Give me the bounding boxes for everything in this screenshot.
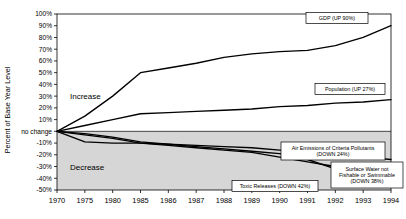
- y-tick-label: 60%: [39, 57, 52, 64]
- callout-line: GDP (UP 90%): [319, 15, 356, 21]
- y-tick-label: 40%: [39, 81, 52, 88]
- x-tick-label: 1991: [299, 196, 315, 205]
- callout-line: Fishable or Swimmable: [339, 172, 395, 178]
- y-tick-label: -20%: [37, 151, 53, 158]
- x-tick-label: 1985: [132, 196, 148, 205]
- y-tick-label: -40%: [37, 175, 53, 182]
- x-tick-label: 1990: [271, 196, 287, 205]
- y-tick-label: 90%: [39, 22, 52, 29]
- y-tick-label: 80%: [39, 34, 52, 41]
- x-tick-label: 1986: [160, 196, 176, 205]
- y-tick-label: 30%: [39, 93, 52, 100]
- chart-container: Percent of Base Year Level 100%90%80%70%…: [0, 0, 406, 219]
- y-tick-label: -10%: [37, 139, 53, 146]
- x-tick-label: 1988: [216, 196, 232, 205]
- x-tick-label: 1992: [327, 196, 343, 205]
- y-tick-label: -30%: [37, 163, 53, 170]
- y-tick-label: -50%: [37, 186, 53, 193]
- x-tick-label: 1993: [355, 196, 371, 205]
- callout-line: Population (UP 27%): [325, 86, 375, 92]
- y-tick-label: 50%: [39, 69, 52, 76]
- callout-line: Air Emissions of Criteria Pollutants: [292, 145, 375, 151]
- x-tick-label: 1970: [49, 196, 65, 205]
- callout-line: Toxic Releases (DOWN 42%): [240, 183, 311, 189]
- callout-line: Surface Water not: [345, 166, 389, 172]
- y-tick-label: no change: [21, 128, 52, 136]
- x-tick-label: 1980: [104, 196, 120, 205]
- y-tick-label: 10%: [39, 116, 52, 123]
- x-tick-label: 1975: [77, 196, 93, 205]
- callout-line: (DOWN 38%): [351, 178, 384, 184]
- y-tick-label: 70%: [39, 46, 52, 53]
- trend-line-chart: Percent of Base Year Level 100%90%80%70%…: [0, 0, 406, 219]
- series-callout: GDP (UP 90%): [306, 13, 368, 24]
- series-callout: Surface Water notFishable or Swimmable(D…: [331, 162, 403, 188]
- callout-line: (DOWN 24%): [317, 151, 350, 157]
- series-callout: Air Emissions of Criteria Pollutants(DOW…: [281, 142, 385, 160]
- series-callout: Population (UP 27%): [315, 84, 385, 95]
- zone-label: Decrease: [70, 163, 105, 172]
- x-tick-label: 1987: [188, 196, 204, 205]
- series-callout: Toxic Releases (DOWN 42%): [232, 181, 318, 192]
- y-tick-label: 100%: [35, 10, 52, 17]
- y-axis-title: Percent of Base Year Level: [3, 66, 12, 153]
- zone-label: Increase: [70, 92, 101, 101]
- y-tick-label: 20%: [39, 104, 52, 111]
- x-tick-label: 1989: [244, 196, 260, 205]
- x-tick-label: 1994: [383, 196, 399, 205]
